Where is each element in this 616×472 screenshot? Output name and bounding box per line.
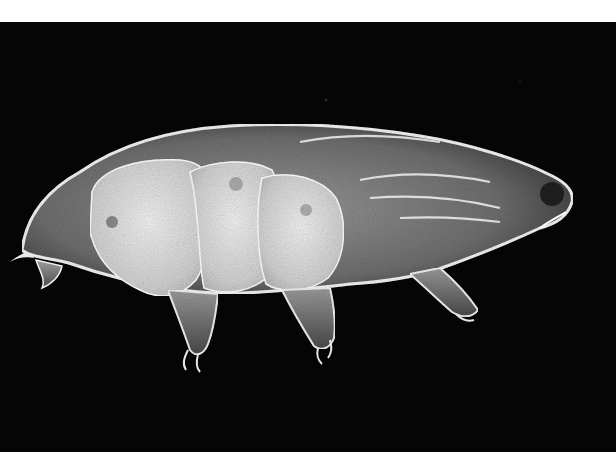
head-mouth: [540, 182, 564, 206]
image-frame: Dark-field microscopy image of a tardigr…: [0, 0, 616, 472]
leg-3: [410, 268, 478, 321]
micrograph: Dark-field microscopy image of a tardigr…: [0, 22, 616, 452]
tardigrade-illustration: [0, 22, 616, 452]
leg-2: [282, 288, 335, 364]
gut-region: [90, 160, 344, 296]
leg-1: [168, 290, 218, 372]
